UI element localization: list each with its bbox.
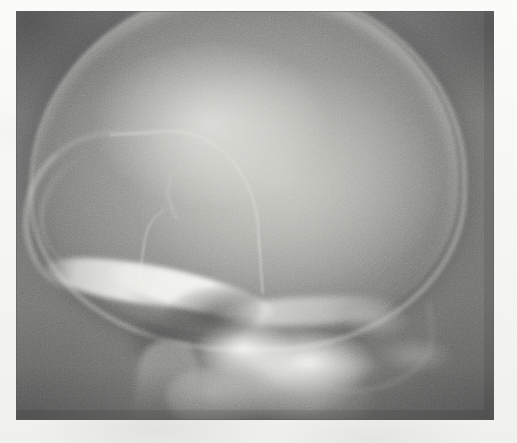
- page-root: skull: [0, 0, 517, 443]
- inferior-exposure-band: [16, 366, 494, 420]
- xray-image-panel: [16, 11, 494, 420]
- radiograph-description: skull: [0, 0, 1, 1]
- xray-canvas: [16, 11, 494, 420]
